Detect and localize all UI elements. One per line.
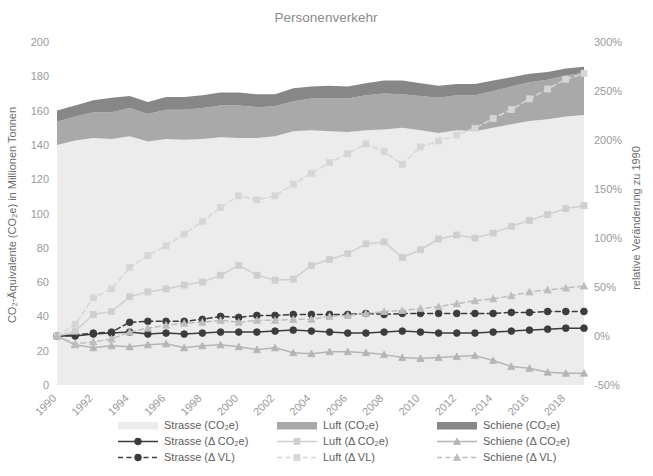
y-tick-label: 0 <box>43 379 49 391</box>
data-point-marker <box>253 329 260 336</box>
legend-swatch <box>277 422 317 430</box>
y-tick-label: 20 <box>37 345 49 357</box>
data-point-marker <box>490 310 497 317</box>
plot-area <box>53 67 587 385</box>
data-point-marker <box>381 149 387 155</box>
data-point-marker <box>490 115 496 121</box>
y2-tick-label: 200% <box>594 134 622 146</box>
chart-title: Personenverkehr <box>275 10 378 25</box>
data-point-marker <box>526 309 533 316</box>
data-point-marker <box>308 170 314 176</box>
data-point-marker <box>72 328 78 334</box>
legend-label: Schiene (CO₂e) <box>483 419 560 431</box>
data-point-marker <box>90 311 96 317</box>
data-point-marker <box>472 310 479 317</box>
data-point-marker <box>181 282 187 288</box>
y2-axis-label: relative Veränderung zu 1990 <box>630 146 642 290</box>
data-point-marker <box>508 107 514 113</box>
y-tick-label: 160 <box>31 105 49 117</box>
data-point-marker <box>562 308 569 315</box>
data-point-marker <box>454 132 460 138</box>
legend-swatch <box>118 422 158 430</box>
data-point-marker <box>399 162 405 168</box>
data-point-marker <box>472 125 478 131</box>
data-point-marker <box>581 308 588 315</box>
data-point-marker <box>399 328 406 335</box>
data-point-marker <box>545 211 551 217</box>
data-point-marker <box>326 329 333 336</box>
data-point-marker <box>163 286 169 292</box>
y-tick-label: 100 <box>31 208 49 220</box>
y2-tick-label: 250% <box>594 85 622 97</box>
y2-tick-label: -50% <box>594 379 620 391</box>
data-point-marker <box>526 96 532 102</box>
data-point-marker <box>327 160 333 166</box>
data-point-marker <box>90 295 96 301</box>
legend-label: Luft (Δ VL) <box>323 451 375 463</box>
y2-tick-label: 100% <box>594 232 622 244</box>
data-point-marker <box>508 309 515 316</box>
data-point-marker <box>381 329 388 336</box>
data-point-marker <box>472 235 478 241</box>
data-point-marker <box>236 262 242 268</box>
legend-label: Schiene (Δ CO₂e) <box>483 435 570 447</box>
data-point-marker <box>472 330 479 337</box>
data-point-marker <box>545 86 551 92</box>
data-point-marker <box>581 203 587 209</box>
data-point-marker <box>544 326 551 333</box>
data-point-marker <box>308 328 315 335</box>
data-point-marker <box>345 251 351 257</box>
data-point-marker <box>144 318 151 325</box>
data-point-marker <box>526 327 533 334</box>
data-point-marker <box>563 76 569 82</box>
data-point-marker <box>108 329 115 336</box>
data-point-marker <box>294 455 300 461</box>
data-point-marker <box>235 329 242 336</box>
y-tick-label: 200 <box>31 36 49 48</box>
data-point-marker <box>490 329 497 336</box>
data-point-marker <box>218 205 224 211</box>
data-point-marker <box>254 272 260 278</box>
data-point-marker <box>453 310 460 317</box>
data-point-marker <box>199 218 205 224</box>
data-point-marker <box>363 241 369 247</box>
data-point-marker <box>109 286 115 292</box>
data-point-marker <box>90 330 97 337</box>
data-point-marker <box>490 230 496 236</box>
data-point-marker <box>218 272 224 278</box>
y-tick-label: 60 <box>37 276 49 288</box>
data-point-marker <box>290 276 296 282</box>
data-point-marker <box>544 308 551 315</box>
data-point-marker <box>508 328 515 335</box>
legend-label: Strasse (Δ VL) <box>164 451 235 463</box>
data-point-marker <box>363 330 370 337</box>
data-point-marker <box>345 151 351 157</box>
data-point-marker <box>272 328 279 335</box>
data-point-marker <box>135 438 142 445</box>
y-tick-label: 80 <box>37 242 49 254</box>
data-point-marker <box>144 331 151 338</box>
data-point-marker <box>435 310 442 317</box>
data-point-marker <box>454 232 460 238</box>
data-point-marker <box>435 330 442 337</box>
legend-label: Strasse (Δ CO₂e) <box>164 435 248 447</box>
chart-canvas: Personenverkehr 020406080100120140160180… <box>0 0 653 476</box>
y-tick-label: 140 <box>31 139 49 151</box>
y2-tick-label: 300% <box>594 36 622 48</box>
area-strassecoe <box>57 115 584 385</box>
data-point-marker <box>163 243 169 249</box>
data-point-marker <box>294 439 300 445</box>
data-point-marker <box>254 197 260 203</box>
data-point-marker <box>290 327 297 334</box>
y-tick-label: 180 <box>31 70 49 82</box>
data-point-marker <box>163 330 170 337</box>
data-point-marker <box>272 277 278 283</box>
data-point-marker <box>181 331 188 338</box>
data-point-marker <box>135 454 142 461</box>
chart-figure: Personenverkehr 020406080100120140160180… <box>0 0 653 476</box>
y2-tick-label: 150% <box>594 183 622 195</box>
y-tick-label: 120 <box>31 173 49 185</box>
data-point-marker <box>109 309 115 315</box>
data-point-marker <box>199 279 205 285</box>
data-point-marker <box>199 330 206 337</box>
